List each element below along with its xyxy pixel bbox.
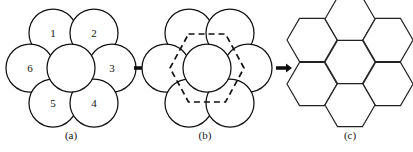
panel-caption-b: (b) [199,129,212,142]
panel-a: 1 2 3 4 5 6 (a) [6,9,136,142]
panel-caption-c: (c) [344,129,357,142]
panel-caption-a: (a) [65,129,78,142]
hexagon-cell-diagram: 1 2 3 4 5 6 (a) (b [0,0,413,152]
panel-c-honeycomb [287,0,413,127]
figure-container: 1 2 3 4 5 6 (a) (b [0,0,413,152]
cell-number-5: 5 [50,97,56,109]
arrow-b-to-c [276,63,292,72]
right-arrow-icon [276,63,292,72]
panel-c: (c) [287,0,413,142]
panel-a-circle-cluster [6,9,136,127]
cell-number-3: 3 [109,62,115,74]
cell-number-4: 4 [91,97,97,109]
circle-center [183,44,231,92]
panel-b: (b) [142,9,272,142]
cell-number-2: 2 [91,27,97,39]
cell-number-1: 1 [50,27,56,39]
circle-cell-center [47,44,95,92]
cell-number-6: 6 [27,62,33,74]
panel-b-circle-cluster [142,9,272,127]
